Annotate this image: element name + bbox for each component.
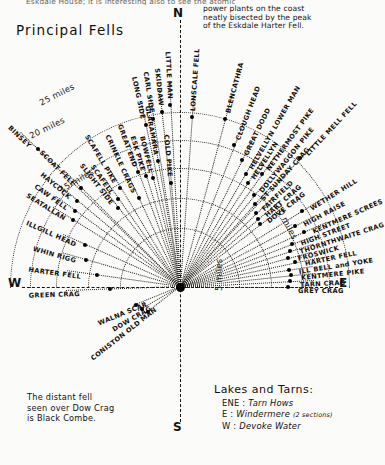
peak-marker-dot	[300, 209, 304, 213]
lakes-name-tarn-hows: Tarn Hows	[248, 398, 293, 408]
peak-marker-dot	[169, 181, 173, 185]
footer-note-line-3: is Black Combe.	[27, 413, 187, 424]
viewpoint-marker	[176, 283, 185, 292]
peak-marker-dot	[151, 176, 155, 180]
distance-label-20-miles: 20 miles	[28, 115, 67, 141]
top-note-line-3: of the Eskdale Harter Fell.	[203, 22, 355, 31]
peak-marker-dot	[253, 202, 257, 206]
peak-marker-dot	[116, 197, 120, 201]
peak-label: GREEN CRAG	[29, 290, 80, 300]
peak-marker-dot	[302, 230, 306, 234]
peak-label: GREY CRAG	[298, 287, 344, 295]
peak-marker-dot	[223, 117, 227, 121]
lakes-bearing-e: E :	[222, 409, 233, 419]
peak-marker-dot	[168, 103, 172, 107]
lakes-and-tarns-block: Lakes and Tarns: ENE : Tarn Hows E : Win…	[214, 383, 358, 432]
top-note: power plants on the coast neatly bisecte…	[203, 5, 355, 31]
peak-marker-dot	[75, 199, 79, 203]
peak-marker-dot	[144, 174, 148, 178]
peak-label: SKIDDAW	[153, 68, 165, 106]
footer-note-line-2: seen over Dow Crag	[27, 403, 187, 414]
peak-marker-dot	[36, 147, 40, 151]
lakes-name-windermere: Windermere	[236, 409, 290, 419]
peak-marker-dot	[286, 285, 290, 289]
lakes-bearing-w: W :	[222, 421, 236, 431]
peak-marker-dot	[137, 196, 141, 200]
lakes-and-tarns-title: Lakes and Tarns:	[214, 383, 358, 396]
lakes-bearing-ene: ENE :	[222, 398, 245, 408]
peak-marker-dot	[287, 268, 291, 272]
peak-marker-dot	[240, 158, 244, 162]
page-title: Principal Fells	[16, 22, 124, 38]
sightline-ray	[180, 287, 312, 288]
peak-marker-dot	[190, 115, 194, 119]
lakes-row-w: W : Devoke Water	[222, 421, 358, 432]
peak-marker-dot	[260, 172, 264, 176]
peak-marker-dot	[108, 287, 112, 291]
lakes-row-ene: ENE : Tarn Hows	[222, 398, 358, 409]
footer-note-line-1: The distant fell	[27, 392, 187, 403]
peak-marker-dot	[246, 181, 250, 185]
peak-marker-dot	[71, 218, 75, 222]
peak-marker-dot	[73, 209, 77, 213]
peak-marker-dot	[118, 186, 122, 190]
peak-marker-dot	[95, 273, 99, 277]
peak-marker-dot	[244, 172, 248, 176]
peak-marker-dot	[293, 260, 297, 264]
peak-label: LITTLE MAN	[163, 52, 173, 100]
lakes-qualifier-windermere: (2 sections)	[293, 411, 333, 419]
peak-marker-dot	[160, 110, 164, 114]
distance-label-25-miles: 25 miles	[38, 81, 76, 107]
peak-marker-dot	[258, 222, 262, 226]
peak-marker-dot	[156, 159, 160, 163]
peak-label: BINSEY	[7, 123, 34, 149]
footer-note: The distant fell seen over Dow Crag is B…	[27, 392, 187, 424]
lakes-row-e: E : Windermere (2 sections)	[222, 409, 358, 421]
peak-marker-dot	[289, 273, 293, 277]
peak-marker-dot	[286, 256, 290, 260]
peak-marker-dot	[254, 211, 258, 215]
peak-label: LONSCALE FELL	[189, 49, 201, 112]
peak-marker-dot	[79, 186, 83, 190]
peak-marker-dot	[288, 279, 292, 283]
peak-marker-dot	[83, 243, 87, 247]
peak-marker-dot	[290, 242, 294, 246]
peak-label: BLENCATHRA	[224, 62, 245, 115]
peak-marker-dot	[252, 193, 256, 197]
peak-marker-dot	[293, 224, 297, 228]
peak-marker-dot	[136, 170, 140, 174]
peak-marker-dot	[116, 206, 120, 210]
lakes-name-devoke-water: Devoke Water	[239, 421, 301, 431]
compass-north-label: N	[173, 6, 183, 20]
peak-marker-dot	[232, 143, 236, 147]
peak-marker-dot	[256, 217, 260, 221]
peak-marker-dot	[84, 258, 88, 262]
peak-marker-dot	[288, 249, 292, 253]
